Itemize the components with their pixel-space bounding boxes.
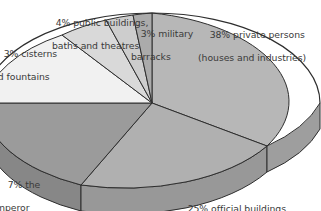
label-private-persons-line1: 38% private persons — [210, 29, 305, 40]
label-private-persons: 38% private persons (houses and industri… — [198, 18, 306, 86]
label-emperor-line1: 7% the — [8, 179, 41, 190]
label-emperor: 7% the mperor — [0, 168, 40, 211]
label-military-barracks-line2: barracks — [129, 51, 193, 62]
label-official-buildings: 25% official buildings — [176, 192, 286, 211]
label-official-buildings-line1: 25% official buildings — [188, 203, 286, 211]
pie-chart-figure: 38% private persons (houses and industri… — [0, 0, 321, 211]
label-emperor-line2: mperor — [0, 202, 40, 211]
label-military-barracks-line1: 3% military — [141, 28, 194, 39]
label-military-barracks: 3% military barracks — [129, 17, 193, 85]
label-private-persons-line2: (houses and industries) — [198, 52, 306, 63]
